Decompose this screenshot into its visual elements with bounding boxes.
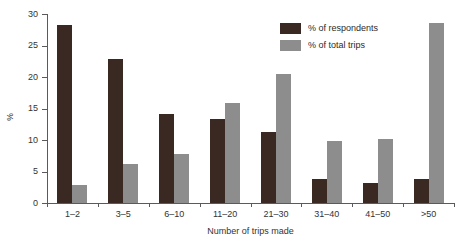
x-tick-mark xyxy=(352,203,353,207)
x-tick-mark xyxy=(301,203,302,207)
bar-respondents xyxy=(363,183,378,203)
bar-respondents xyxy=(159,114,174,203)
x-tick-mark xyxy=(403,203,404,207)
y-tick-mark xyxy=(42,140,47,141)
bar-total-trips xyxy=(327,141,342,203)
x-axis-title: Number of trips made xyxy=(47,226,454,236)
bar-respondents xyxy=(108,59,123,203)
chart-legend: % of respondents% of total trips xyxy=(280,21,440,55)
x-tick-mark xyxy=(454,203,455,207)
x-tick-label: 1–2 xyxy=(46,209,98,220)
x-tick-mark xyxy=(251,203,252,207)
y-tick-mark xyxy=(42,77,47,78)
legend-item: % of total trips xyxy=(280,38,440,52)
y-tick-label: 15 xyxy=(14,104,38,113)
x-tick-mark xyxy=(200,203,201,207)
legend-swatch-icon xyxy=(280,23,301,34)
y-tick-label: 30 xyxy=(14,10,38,19)
y-tick-mark xyxy=(42,46,47,47)
x-tick-label: 21–30 xyxy=(250,209,302,220)
y-tick-mark xyxy=(42,172,47,173)
bar-chart: % 051015202530 1–23–56–1011–2021–3031–40… xyxy=(0,0,464,251)
bar-respondents xyxy=(414,179,429,203)
y-tick-label: 5 xyxy=(14,167,38,176)
y-tick-mark xyxy=(42,14,47,15)
legend-label: % of respondents xyxy=(308,23,378,33)
x-tick-mark xyxy=(149,203,150,207)
legend-swatch-icon xyxy=(280,40,301,51)
bar-total-trips xyxy=(276,74,291,203)
x-tick-label: 3–5 xyxy=(97,209,149,220)
y-tick-mark xyxy=(42,109,47,110)
bar-respondents xyxy=(312,179,327,203)
bar-respondents xyxy=(210,119,225,203)
y-tick-label: 20 xyxy=(14,73,38,82)
x-tick-mark xyxy=(98,203,99,207)
y-tick-label: 0 xyxy=(14,199,38,208)
bar-respondents xyxy=(57,25,72,203)
bar-total-trips xyxy=(174,154,189,203)
bar-total-trips xyxy=(123,164,138,203)
bar-total-trips xyxy=(225,103,240,203)
bar-total-trips xyxy=(72,185,87,203)
x-tick-label: >50 xyxy=(403,209,455,220)
y-axis-line xyxy=(47,14,48,204)
x-tick-label: 11–20 xyxy=(199,209,251,220)
x-tick-mark xyxy=(47,203,48,207)
x-tick-label: 6–10 xyxy=(148,209,200,220)
x-tick-label: 41–50 xyxy=(352,209,404,220)
bar-respondents xyxy=(261,132,276,203)
x-tick-label: 31–40 xyxy=(301,209,353,220)
y-tick-label: 10 xyxy=(14,136,38,145)
bar-total-trips xyxy=(378,139,393,203)
y-tick-label: 25 xyxy=(14,41,38,50)
legend-item: % of respondents xyxy=(280,21,440,35)
legend-label: % of total trips xyxy=(308,40,365,50)
